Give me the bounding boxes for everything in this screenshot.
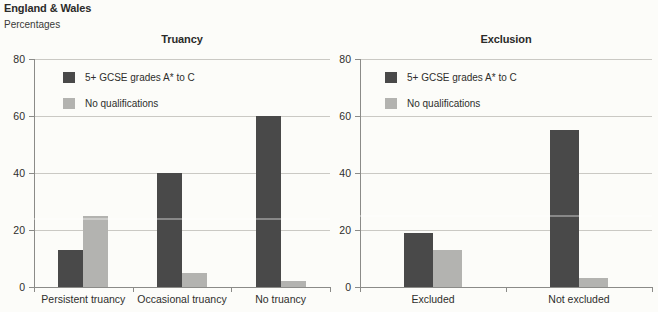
series2-label: No qualifications (85, 98, 158, 109)
bar-noqual-1 (579, 278, 608, 287)
series1-label: 5+ GCSE grades A* to C (407, 72, 517, 83)
y-tick-label-20: 20 (321, 224, 351, 236)
y-axis-line (360, 59, 361, 287)
x-tick (360, 288, 361, 292)
legend-row-gcse: 5+ GCSE grades A* to C (385, 71, 517, 83)
figure: England & Wales Percentages Truancy Excl… (0, 0, 658, 312)
exclusion-chart: 020406080ExcludedNot excluded (0, 0, 658, 312)
bar-noqual-0 (433, 250, 462, 287)
legend-truancy: 5+ GCSE grades A* to C No qualifications (63, 71, 195, 123)
y-tick-label-40: 40 (321, 167, 351, 179)
bar-gcse-1 (550, 130, 579, 287)
scan-artifact (360, 215, 652, 217)
series1-swatch (385, 72, 397, 83)
gridline-40 (360, 173, 652, 174)
legend-row-noqual: No qualifications (385, 97, 517, 109)
category-label: Excluded (358, 293, 508, 305)
category-label: Not excluded (504, 293, 654, 305)
series1-label: 5+ GCSE grades A* to C (85, 72, 195, 83)
legend-exclusion: 5+ GCSE grades A* to C No qualifications (385, 71, 517, 123)
gridline-20 (360, 230, 652, 231)
y-tick-label-80: 80 (321, 53, 351, 65)
y-tick-label-60: 60 (321, 110, 351, 122)
y-tick-label-0: 0 (321, 281, 351, 293)
series2-swatch (385, 98, 397, 109)
x-tick (506, 288, 507, 292)
legend-row-noqual: No qualifications (63, 97, 195, 109)
series1-swatch (63, 72, 75, 83)
gridline-80 (360, 59, 652, 60)
legend-row-gcse: 5+ GCSE grades A* to C (63, 71, 195, 83)
x-tick (652, 288, 653, 292)
series2-label: No qualifications (407, 98, 480, 109)
bar-gcse-0 (404, 233, 433, 287)
series2-swatch (63, 98, 75, 109)
